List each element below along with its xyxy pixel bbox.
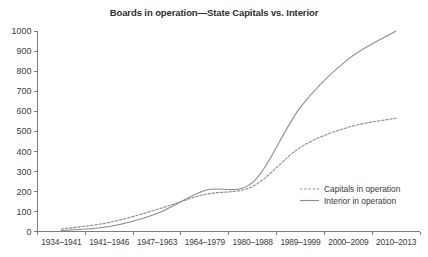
x-axis-tick-label: 1947–1963 xyxy=(137,237,178,247)
y-axis-tick-label: 900 xyxy=(16,46,31,56)
y-axis-tick-label: 100 xyxy=(16,207,31,217)
y-axis-tick-label: 1000 xyxy=(11,26,31,36)
y-axis-group: 01002003004005006007008009001000 xyxy=(11,26,37,237)
chart-legend: Capitals in operationInterior in operati… xyxy=(300,184,401,206)
y-axis-tick-label: 0 xyxy=(26,227,31,237)
chart-container: Boards in operation—State Capitals vs. I… xyxy=(0,0,428,257)
y-axis-tick-label: 200 xyxy=(16,187,31,197)
x-axis-tick-label: 1964–1979 xyxy=(185,237,226,247)
y-axis-tick-labels: 01002003004005006007008009001000 xyxy=(11,26,31,237)
x-axis-tick-label: 1989–1999 xyxy=(280,237,321,247)
x-axis-tick-label: 2000–2009 xyxy=(328,237,369,247)
x-axis-group: 1934–19411941–19461947–19631964–19791980… xyxy=(38,232,421,248)
y-axis-tick-label: 700 xyxy=(16,86,31,96)
y-axis-tick-label: 300 xyxy=(16,167,31,177)
x-axis-tick-label: 1934–1941 xyxy=(41,237,82,247)
y-axis-tick-label: 600 xyxy=(16,106,31,116)
y-axis-tick-label: 800 xyxy=(16,66,31,76)
legend-label-capitals-in-operation: Capitals in operation xyxy=(324,184,401,194)
line-chart-plot: 01002003004005006007008009001000 1934–19… xyxy=(0,0,428,257)
series-line-capitals-in-operation xyxy=(61,118,396,229)
legend-label-interior-in-operation: Interior in operation xyxy=(324,196,397,206)
x-axis-tick-label: 1941–1946 xyxy=(89,237,130,247)
x-axis-tick-label: 2010–2013 xyxy=(376,237,417,247)
x-axis-ticks xyxy=(38,232,421,236)
y-axis-tick-label: 500 xyxy=(16,126,31,136)
x-axis-tick-labels: 1934–19411941–19461947–19631964–19791980… xyxy=(41,237,416,247)
x-axis-tick-label: 1980–1988 xyxy=(233,237,274,247)
y-axis-ticks xyxy=(34,31,38,232)
y-axis-tick-label: 400 xyxy=(16,147,31,157)
